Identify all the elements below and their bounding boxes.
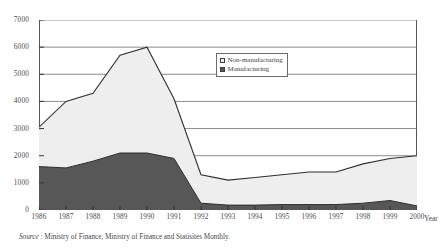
x-axis-tick-label: 1991 xyxy=(167,213,182,222)
y-axis-tick-label: 5000 xyxy=(14,70,29,78)
source-label: Source xyxy=(19,233,39,241)
legend-item-non-manufacturing: Non-manufacturing xyxy=(220,56,283,65)
x-axis-tick-label: 1999 xyxy=(383,213,398,222)
x-axis-tick-label: 1990 xyxy=(140,213,155,222)
x-axis-tick-label: 1988 xyxy=(86,213,101,222)
light-square-icon xyxy=(220,58,225,63)
x-axis-tick-label: 1998 xyxy=(356,213,371,222)
y-axis-tick-label: 0 xyxy=(25,206,29,214)
x-axis-tick-label: 2000 xyxy=(410,213,425,222)
y-axis-labels: 70006000500040003000200010000 xyxy=(0,20,36,210)
legend-label-manufacturing: Manufacturing xyxy=(228,65,270,74)
y-axis-tick-label: 7000 xyxy=(14,16,29,24)
x-axis-tick-label: 1989 xyxy=(113,213,128,222)
x-axis-tick-label: 1986 xyxy=(32,213,47,222)
y-axis-tick-label: 3000 xyxy=(14,125,29,133)
x-axis-tick-label: 1994 xyxy=(248,213,263,222)
source-text: : Ministry of Finance, Ministry of Finan… xyxy=(39,233,230,241)
x-axis-labels: 1986198719881989199019911992199319941995… xyxy=(39,213,417,227)
x-axis-title: Year xyxy=(424,214,438,223)
y-axis-tick-label: 1000 xyxy=(14,179,29,187)
chart-legend: Non-manufacturing Manufacturing xyxy=(216,53,288,77)
y-axis-tick-label: 4000 xyxy=(14,97,29,105)
legend-label-non-manufacturing: Non-manufacturing xyxy=(228,56,283,65)
x-axis-tick-label: 1992 xyxy=(194,213,209,222)
source-note: Source : Ministry of Finance, Ministry o… xyxy=(19,232,230,242)
y-axis-tick-label: 6000 xyxy=(14,43,29,51)
legend-item-manufacturing: Manufacturing xyxy=(220,65,283,74)
stacked-area-plot xyxy=(39,20,417,210)
x-axis-tick-label: 1993 xyxy=(221,213,236,222)
dark-square-icon xyxy=(220,67,225,72)
x-axis-tick-label: 1996 xyxy=(302,213,317,222)
y-axis-tick-label: 2000 xyxy=(14,152,29,160)
x-axis-tick-label: 1997 xyxy=(329,213,344,222)
x-axis-tick-label: 1987 xyxy=(59,213,74,222)
x-axis-tick-label: 1995 xyxy=(275,213,290,222)
chart-container: 70006000500040003000200010000 1986198719… xyxy=(0,0,446,249)
